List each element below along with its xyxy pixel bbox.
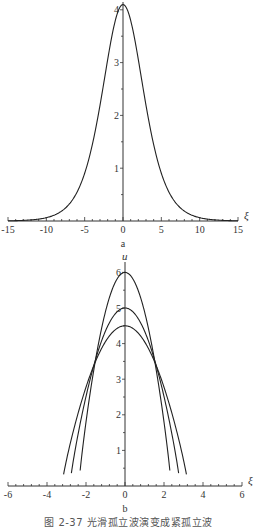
x-tick-label: 10 [195, 224, 205, 235]
y-axis-label: u [122, 250, 128, 262]
x-tick-label: 4 [201, 489, 206, 500]
x-tick-label: -5 [80, 224, 88, 235]
x-tick-label: -15 [1, 224, 14, 235]
x-tick-label: 15 [233, 224, 243, 235]
x-tick-label: 5 [159, 224, 164, 235]
y-tick-label: 1 [114, 163, 119, 174]
x-tick-label: 0 [121, 224, 126, 235]
x-axis-label: ξ [244, 209, 249, 222]
y-tick-label: 3 [114, 57, 119, 68]
y-tick-label: 4 [116, 338, 121, 349]
x-tick-label: 6 [240, 489, 245, 500]
y-tick-label: 1 [116, 445, 121, 456]
chart-panel-b: -6-4-20246123456ξub [4, 250, 253, 514]
y-tick-label: 2 [116, 409, 121, 420]
y-tick-label: 2 [114, 110, 119, 121]
x-tick-label: -2 [82, 489, 90, 500]
panel-label: a [121, 238, 126, 249]
figure-caption: 图 2-37 光滑孤立波演变成紧孤立波 [0, 514, 257, 529]
chart-panel-a: -15-10-50510151234ξa [1, 2, 249, 249]
x-tick-label: -10 [40, 224, 53, 235]
x-tick-label: -4 [43, 489, 51, 500]
x-axis-label: ξ [248, 474, 253, 487]
x-tick-label: 2 [162, 489, 167, 500]
panel-label: b [123, 503, 128, 514]
x-tick-label: 0 [123, 489, 128, 500]
y-tick-label: 3 [116, 374, 121, 385]
x-tick-label: -6 [4, 489, 12, 500]
